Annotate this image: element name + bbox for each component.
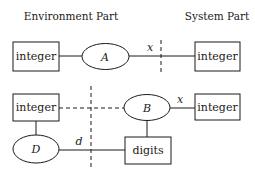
ellipse-a-label: A xyxy=(100,51,109,64)
sys-integer-label-top: integer xyxy=(197,50,238,63)
sys-integer-label-bottom: integer xyxy=(197,101,238,114)
env-integer-label-bottom: integer xyxy=(16,101,57,114)
bottom-diagram: integer B x integer D d digits xyxy=(13,86,240,167)
env-integer-label-top: integer xyxy=(16,50,57,63)
environment-part-heading: Environment Part xyxy=(24,10,119,22)
system-part-heading: System Part xyxy=(185,10,250,22)
interface-diagram: Environment Part System Part integer A x… xyxy=(0,0,255,178)
edge-label-x-top: x xyxy=(147,41,154,54)
digits-label: digits xyxy=(132,144,164,157)
ellipse-b-label: B xyxy=(142,102,151,115)
top-diagram: integer A x integer xyxy=(13,40,240,72)
edge-label-d: d xyxy=(75,135,82,148)
ellipse-d-label: D xyxy=(31,143,41,156)
edge-label-x-bottom: x xyxy=(177,93,184,106)
